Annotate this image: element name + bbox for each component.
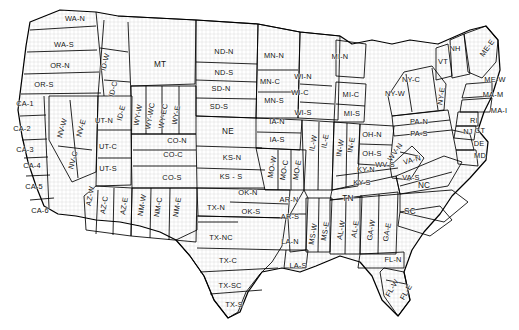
map-outline-svg bbox=[0, 0, 519, 330]
us-regions-map: WA-NWA-SOR-NOR-SID-WID-CID-EMTWY-WWY-WCW… bbox=[0, 0, 519, 330]
